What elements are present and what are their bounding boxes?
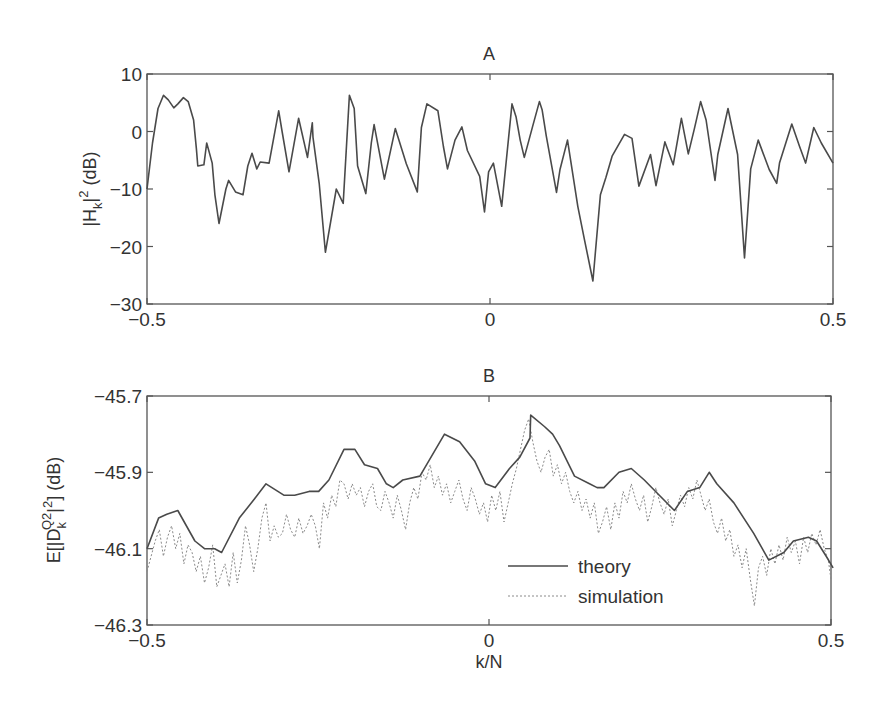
legend-theory-label: theory bbox=[578, 556, 631, 577]
x-tick-label: 0 bbox=[485, 309, 496, 330]
y-tick-label: −45.7 bbox=[94, 386, 142, 407]
y-tick-label: −30 bbox=[110, 294, 142, 315]
plot-b-ylabel: E[|DkQ2|2] (dB) bbox=[39, 457, 69, 563]
x-tick-label: 0.5 bbox=[818, 630, 844, 651]
y-tick-label: 10 bbox=[121, 64, 142, 85]
plot-b-ticks: −0.500.5−45.7−45.9−46.1−46.3 bbox=[94, 386, 844, 651]
x-tick-label: 0.5 bbox=[820, 309, 846, 330]
x-tick-label: 0 bbox=[484, 630, 495, 651]
y-tick-label: −45.9 bbox=[94, 462, 142, 483]
plot-b-simulation-line bbox=[147, 419, 831, 606]
y-tick-label: −20 bbox=[110, 237, 142, 258]
plot-a-series-line bbox=[147, 95, 833, 281]
y-tick-label: −46.3 bbox=[94, 615, 142, 636]
y-tick-label: −10 bbox=[110, 179, 142, 200]
plot-b-title: B bbox=[483, 366, 495, 386]
plot-b-theory-line bbox=[147, 415, 833, 568]
y-tick-label: 0 bbox=[131, 122, 142, 143]
plot-b: B −0.500.5−45.7−45.9−46.1−46.3 E[|DkQ2|2… bbox=[39, 366, 844, 672]
legend-simulation-label: simulation bbox=[578, 586, 664, 607]
legend: theory simulation bbox=[508, 556, 664, 607]
plot-a-ticks: −0.500.5100−10−20−30 bbox=[110, 64, 846, 330]
plot-a-ylabel: |Hk|2 (dB) bbox=[76, 151, 105, 226]
plot-a: A −0.500.5100−10−20−30 |Hk|2 (dB) bbox=[76, 44, 846, 330]
y-tick-label: −46.1 bbox=[94, 539, 142, 560]
plot-b-frame bbox=[147, 396, 831, 625]
plot-a-frame bbox=[147, 74, 833, 304]
figure: A −0.500.5100−10−20−30 |Hk|2 (dB) B −0.5… bbox=[0, 0, 888, 720]
plot-b-xlabel: k/N bbox=[476, 652, 503, 672]
plot-a-title: A bbox=[483, 44, 495, 64]
